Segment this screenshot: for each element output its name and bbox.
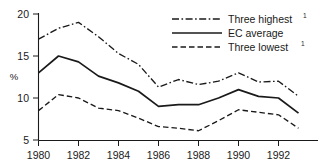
legend-label-three-highest: Three highest [228,13,292,25]
y-tick-label-15: 15 [17,50,29,62]
line-chart: 20 15 10 5 % 1980 1982 1984 1986 1988 19… [0,0,327,168]
x-tick-label-1982: 1982 [67,149,91,161]
x-tick-label-1984: 1984 [107,149,131,161]
x-tick-label-1980: 1980 [27,149,51,161]
x-tick-label-1990: 1990 [227,149,251,161]
legend-footnote-three-lowest: 1 [301,40,305,47]
legend-label-three-lowest: Three lowest [228,41,288,53]
x-tick-label-1988: 1988 [187,149,211,161]
legend-label-ec-average: EC average [228,27,284,39]
chart-canvas: 20 15 10 5 % 1980 1982 1984 1986 1988 19… [0,0,327,168]
series-line-ec-average [39,56,299,113]
y-axis-title: % [10,71,19,82]
legend: Three highest 1 EC average Three lowest … [172,12,307,53]
x-tick-marks [39,141,279,147]
y-tick-label-10: 10 [17,92,29,104]
y-tick-label-20: 20 [17,8,29,20]
x-tick-label-1986: 1986 [147,149,171,161]
series-line-three-lowest [39,95,299,131]
x-tick-label-1992: 1992 [267,149,291,161]
legend-footnote-three-highest: 1 [303,12,307,19]
y-tick-marks [33,14,39,140]
y-tick-label-5: 5 [23,134,29,146]
